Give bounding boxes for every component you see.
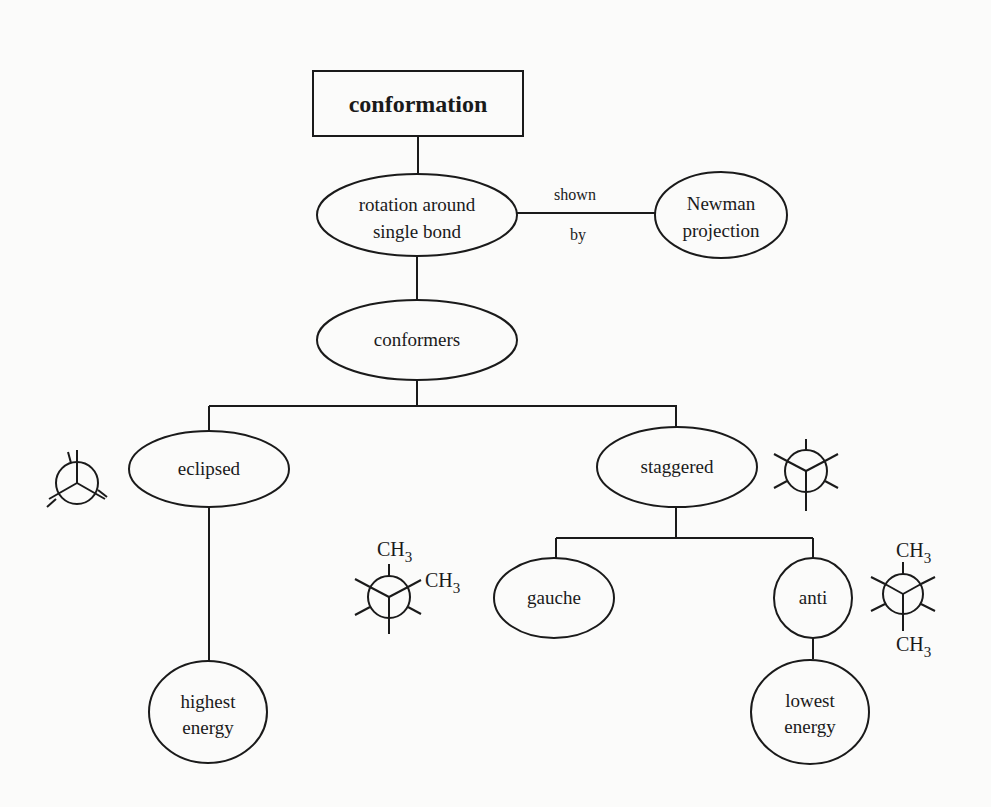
node-highest-energy: highest energy xyxy=(149,661,267,763)
anti-ch3-bottom: CH3 xyxy=(896,633,931,660)
node-highest-energy-line2: energy xyxy=(182,717,234,738)
node-staggered: staggered xyxy=(597,427,757,507)
edge-label-by: by xyxy=(570,226,586,244)
gauche-ch3-top: CH3 xyxy=(377,538,412,565)
node-anti-label: anti xyxy=(799,587,828,608)
node-rotation-line1: rotation around xyxy=(359,194,476,215)
node-lowest-energy-line1: lowest xyxy=(785,690,835,711)
node-gauche-label: gauche xyxy=(527,587,581,608)
gauche-ch3-right: CH3 xyxy=(425,569,460,596)
node-highest-energy-line1: highest xyxy=(181,691,237,712)
gauche-newman-projection-icon xyxy=(355,564,421,634)
node-conformers: conformers xyxy=(317,300,517,380)
node-newman-projection: Newman projection xyxy=(655,172,787,258)
node-staggered-label: staggered xyxy=(641,456,714,477)
edge-label-shown: shown xyxy=(554,186,596,203)
staggered-newman-projection-icon xyxy=(774,439,838,511)
node-eclipsed-label: eclipsed xyxy=(178,458,241,479)
anti-newman-projection-icon xyxy=(871,562,935,631)
node-rotation-line2: single bond xyxy=(373,221,462,242)
node-conformation-label: conformation xyxy=(349,91,488,117)
node-lowest-energy: lowest energy xyxy=(751,660,869,764)
node-anti: anti xyxy=(774,558,852,638)
node-rotation: rotation around single bond xyxy=(317,174,517,256)
node-newman-line1: Newman xyxy=(687,193,756,214)
node-conformers-label: conformers xyxy=(374,329,461,350)
eclipsed-newman-projection-icon xyxy=(47,450,107,507)
node-gauche: gauche xyxy=(494,558,614,638)
concept-map-diagram: conformation rotation around single bond… xyxy=(0,0,991,807)
anti-ch3-top: CH3 xyxy=(896,539,931,566)
node-lowest-energy-line2: energy xyxy=(784,716,836,737)
node-newman-line2: projection xyxy=(682,220,760,241)
node-conformation: conformation xyxy=(313,71,523,136)
node-eclipsed: eclipsed xyxy=(129,431,289,507)
